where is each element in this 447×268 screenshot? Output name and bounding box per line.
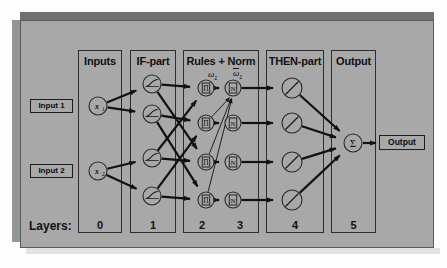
if-node-3 [143,149,161,167]
rule-node-glyph-4: Π [203,196,209,205]
layer-number-3: 3 [221,219,259,231]
if-node-4 [143,187,161,205]
wire-mf1-rule3 [157,92,196,149]
wire-norm-sum-rule2 [212,98,230,117]
rule-node-glyph-2: Π [203,119,209,128]
weight-label-normalized-2: ω1 [233,69,242,80]
wire-then1-sum [300,95,340,131]
input-node-label-x2: x [94,167,99,176]
input-tag-2: Input 2 [30,164,73,178]
wire-mf1-rule1 [161,85,190,87]
wire-x1-mf2 [107,107,135,111]
norm-node-glyph-3: N [230,159,235,167]
wire-then4-sum [300,155,340,193]
norm-node-glyph-1: N [230,85,235,93]
input-node-label-x1: x [94,102,99,111]
if-node-2 [143,105,161,123]
if-node-1 [143,75,161,93]
rule-node-glyph-1: Π [203,84,209,93]
wire-mf2-rule4 [157,122,197,186]
layers-row-label: Layers: [29,219,72,233]
norm-node-glyph-2: N [230,120,235,128]
input-tag-1: Input 1 [30,99,73,113]
wire-then3-sum [302,148,336,159]
wire-mf4-rule4 [161,197,190,199]
wire-norm-sum-rule4 [208,99,232,192]
norm-node-glyph-4: N [230,197,235,205]
anfis-diagram-root: InputsIF-partRules + NormTHEN-partOutput… [0,0,447,268]
wire-then2-sum [302,126,336,137]
wire-x1-mf1 [107,90,136,102]
input-node-subscript-1: 1 [102,106,105,112]
layer-number-0: 0 [78,219,122,231]
wire-mf3-rule3 [161,159,190,161]
layer-number-5: 5 [331,219,376,231]
layer-number-4: 4 [266,219,324,231]
wire-x2-mf4 [107,175,137,189]
weight-label-1: ω1 [208,70,217,81]
sum-node-glyph: Σ [350,138,356,149]
layer-number-2: 2 [183,219,221,231]
rule-node-glyph-3: Π [203,158,209,167]
output-tag: Output [379,135,425,150]
wire-x2-mf3 [107,162,135,169]
input-node-subscript-2: 2 [102,171,105,177]
layer-number-1: 1 [130,219,176,231]
